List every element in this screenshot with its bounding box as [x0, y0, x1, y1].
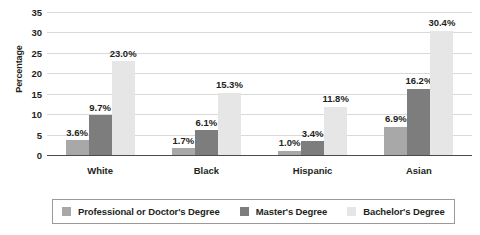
bar[interactable] [407, 89, 430, 155]
y-axis-tick-label: 0 [37, 150, 42, 161]
bar-group-bars: 1.7%6.1%15.3% [153, 12, 259, 155]
y-axis-tick-label: 5 [37, 129, 42, 140]
bar-value-label: 6.9% [385, 114, 407, 124]
bar-value-label: 1.7% [173, 136, 195, 146]
bar-slot: 16.2% [407, 12, 430, 155]
plot-area: 05101520253035 3.6%9.7%23.0%White1.7%6.1… [47, 12, 472, 155]
legend-swatch-icon [347, 207, 356, 216]
x-axis-category-label: Hispanic [260, 165, 366, 176]
bar-value-label: 9.7% [89, 103, 111, 113]
bar-slot: 3.6% [66, 12, 89, 155]
bar-value-label: 15.3% [216, 80, 243, 90]
legend-item[interactable]: Bachelor's Degree [347, 206, 444, 217]
bar-value-label: 30.4% [428, 18, 455, 28]
bar-slot: 1.0% [278, 12, 301, 155]
y-axis-tick-label: 35 [31, 7, 42, 18]
bar-slot: 23.0% [112, 12, 135, 155]
x-axis-category-label: White [47, 165, 153, 176]
bar-slot: 6.9% [384, 12, 407, 155]
x-axis-line [47, 155, 472, 157]
y-axis-tick-label: 30 [31, 27, 42, 38]
bar-group: 1.7%6.1%15.3%Black [153, 12, 259, 155]
legend-swatch-icon [240, 207, 249, 216]
bar-slot: 1.7% [172, 12, 195, 155]
bar[interactable] [89, 115, 112, 155]
bar-group-bars: 1.0%3.4%11.8% [260, 12, 366, 155]
bar-slot: 30.4% [430, 12, 453, 155]
bar-value-label: 3.4% [302, 129, 324, 139]
bar-slot: 6.1% [195, 12, 218, 155]
bar[interactable] [218, 93, 241, 156]
y-axis-tick-label: 10 [31, 109, 42, 120]
bar-slot: 11.8% [324, 12, 347, 155]
bar[interactable] [112, 61, 135, 155]
bar[interactable] [430, 31, 453, 155]
bar-group: 3.6%9.7%23.0%White [47, 12, 153, 155]
bar-group-bars: 3.6%9.7%23.0% [47, 12, 153, 155]
bar[interactable] [66, 140, 89, 155]
legend-item[interactable]: Master's Degree [240, 206, 328, 217]
legend-swatch-icon [62, 207, 71, 216]
bar[interactable] [195, 130, 218, 155]
legend-label: Bachelor's Degree [363, 206, 444, 217]
bar-value-label: 1.0% [279, 138, 301, 148]
legend-label: Master's Degree [256, 206, 328, 217]
bar[interactable] [301, 141, 324, 155]
x-axis-category-label: Black [153, 165, 259, 176]
bar-value-label: 11.8% [322, 94, 348, 104]
bar-value-label: 23.0% [110, 49, 137, 59]
y-axis-tick-label: 15 [31, 88, 42, 99]
bar[interactable] [384, 127, 407, 155]
bar-value-label: 16.2% [405, 76, 432, 86]
bar-slot: 3.4% [301, 12, 324, 155]
legend-label: Professional or Doctor's Degree [78, 206, 220, 217]
bar-slot: 15.3% [218, 12, 241, 155]
chart-legend: Professional or Doctor's DegreeMaster's … [52, 199, 455, 224]
legend-item[interactable]: Professional or Doctor's Degree [62, 206, 220, 217]
bar-value-label: 6.1% [196, 118, 218, 128]
bar-group: 6.9%16.2%30.4%Asian [366, 12, 472, 155]
bar-slot: 9.7% [89, 12, 112, 155]
bar-value-label: 3.6% [66, 128, 88, 138]
y-axis-tick-label: 25 [31, 47, 42, 58]
bar-chart: Percentage 05101520253035 3.6%9.7%23.0%W… [0, 0, 480, 235]
y-axis-tick-label: 20 [31, 68, 42, 79]
bar-group: 1.0%3.4%11.8%Hispanic [260, 12, 366, 155]
bar-group-bars: 6.9%16.2%30.4% [366, 12, 472, 155]
bar[interactable] [324, 107, 347, 155]
x-axis-category-label: Asian [366, 165, 472, 176]
y-axis-title: Percentage [14, 19, 24, 119]
